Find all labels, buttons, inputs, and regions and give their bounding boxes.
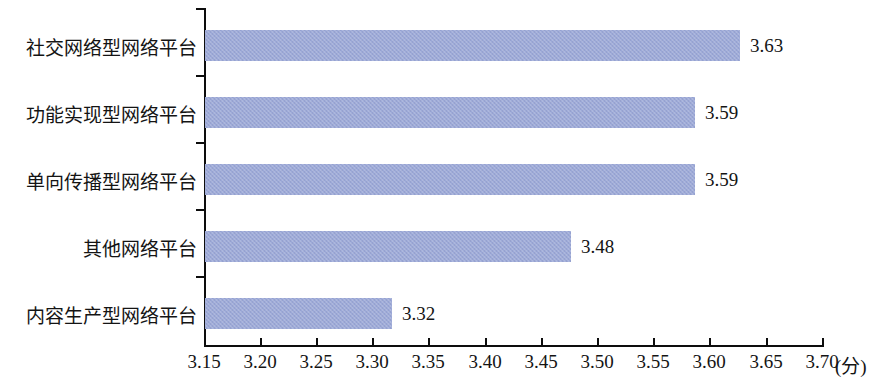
category-label: 其他网络平台 (0, 234, 197, 261)
x-axis-unit-label: (分) (835, 351, 867, 378)
x-axis-line (204, 345, 824, 347)
x-axis-tick-label: 3.20 (243, 351, 276, 373)
x-axis-tick-label: 3.60 (692, 351, 725, 373)
bar (205, 97, 695, 128)
x-axis-tick-label: 3.50 (580, 351, 613, 373)
y-axis-tick (196, 209, 205, 211)
x-axis-tick (316, 338, 318, 346)
x-axis-tick-label: 3.65 (749, 351, 782, 373)
bar-value-label: 3.63 (750, 35, 783, 57)
category-label: 内容生产型网络平台 (0, 301, 197, 328)
x-axis-tick-label: 3.15 (187, 351, 220, 373)
x-axis-tick (428, 338, 430, 346)
category-label: 社交网络型网络平台 (0, 33, 197, 60)
x-axis-tick (541, 338, 543, 346)
x-axis-tick-label: 3.70 (805, 351, 838, 373)
y-axis-tick (196, 276, 205, 278)
bar (205, 298, 392, 329)
bar-value-label: 3.32 (402, 303, 435, 325)
bar-value-label: 3.59 (705, 102, 738, 124)
x-axis-tick (485, 338, 487, 346)
x-axis-tick (653, 338, 655, 346)
bar-value-label: 3.48 (581, 236, 614, 258)
x-axis-tick (372, 338, 374, 346)
x-axis-tick-label: 3.55 (636, 351, 669, 373)
bar-chart: 社交网络型网络平台 功能实现型网络平台 单向传播型网络平台 其他网络平台 内容生… (0, 0, 884, 380)
bar (205, 30, 740, 61)
x-axis-tick-label: 3.30 (355, 351, 388, 373)
category-label: 功能实现型网络平台 (0, 100, 197, 127)
x-axis-tick (204, 338, 206, 346)
x-axis-tick (766, 338, 768, 346)
x-axis-tick-label: 3.45 (524, 351, 557, 373)
x-axis-tick-label: 3.35 (411, 351, 444, 373)
y-axis-tick (196, 75, 205, 77)
y-axis-tick (196, 8, 205, 10)
x-axis-tick (709, 338, 711, 346)
bar (205, 164, 695, 195)
x-axis-tick-label: 3.25 (299, 351, 332, 373)
bar (205, 231, 571, 262)
x-axis-tick (260, 338, 262, 346)
x-axis-tick-label: 3.40 (468, 351, 501, 373)
category-label: 单向传播型网络平台 (0, 167, 197, 194)
bar-value-label: 3.59 (705, 169, 738, 191)
y-axis-tick (196, 142, 205, 144)
x-axis-tick (597, 338, 599, 346)
x-axis-tick (822, 338, 824, 346)
